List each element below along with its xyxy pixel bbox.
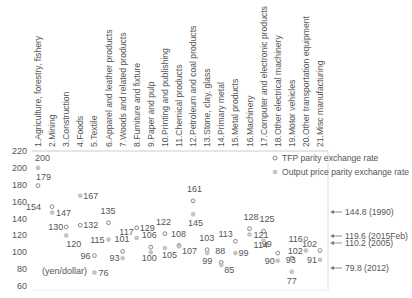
output-point [50, 211, 54, 215]
tfp-point [276, 251, 280, 255]
data-label: 113 [218, 229, 232, 239]
tfp-point [135, 226, 139, 230]
output-point [318, 258, 322, 262]
data-label: 90 [265, 256, 275, 266]
output-point [219, 263, 223, 267]
data-label: 88 [215, 246, 225, 256]
data-label: 161 [187, 184, 202, 194]
category-label: 3.Construction [61, 91, 71, 147]
tfp-point [78, 223, 82, 227]
y-tick-label: 100 [12, 247, 27, 257]
category-label: 19.Motor vehicles [287, 80, 297, 147]
data-label: 179 [36, 172, 51, 182]
output-point [290, 270, 294, 274]
tfp-point [163, 232, 167, 236]
data-label: 121 [254, 230, 269, 240]
tfp-point [93, 254, 97, 258]
data-label: 105 [162, 250, 177, 260]
data-label: 108 [171, 229, 186, 239]
tfp-point [36, 184, 40, 188]
output-point [177, 244, 181, 248]
tfp-point [318, 249, 322, 253]
category-label: 2.Mining [47, 114, 57, 147]
y-tick-label: 200 [12, 163, 27, 173]
category-label: 6.Apparel and leather products [104, 29, 114, 147]
data-label: 135 [101, 206, 116, 216]
category-label: 7.Woods and related products [118, 32, 128, 147]
data-label: 106 [142, 230, 157, 240]
data-label: 130 [48, 222, 63, 232]
category-label: 20.Other transportation equipment [301, 15, 311, 147]
legend-output-marker [273, 170, 277, 174]
category-label: 10.Printing and publishing [160, 48, 170, 147]
arrowhead-icon [330, 266, 334, 270]
category-label: 14.Primary metal [216, 82, 226, 147]
tfp-point [248, 227, 252, 231]
y-tick-label: 140 [12, 214, 27, 224]
y-tick-label: 120 [12, 230, 27, 240]
legend-output-label: Output price parity exchange rate [282, 167, 409, 177]
data-label: 116 [289, 234, 303, 244]
data-label: 128 [244, 212, 259, 222]
y-tick-label: 160 [12, 197, 27, 207]
data-label: 117 [119, 227, 133, 237]
data-label: 154 [26, 202, 41, 212]
data-label: 77 [287, 276, 297, 286]
category-label: 15.Metal products [230, 79, 240, 147]
output-point [276, 259, 280, 263]
category-label: 1.Agriculture, forestry, fishery [33, 35, 43, 147]
data-label: 200 [35, 153, 50, 163]
category-label: 4.Foods [75, 116, 85, 147]
data-label: 102 [288, 246, 303, 256]
tfp-point [121, 250, 125, 254]
category-label: 5.Textile [89, 115, 99, 147]
tfp-point [50, 205, 54, 209]
category-label: 16.Machinery [245, 95, 255, 147]
category-label: 8.Furniture and fixture [132, 63, 142, 147]
output-point [191, 212, 195, 216]
chart-canvas: 60801001201401601802002201.Agriculture, … [0, 0, 412, 298]
output-point [78, 194, 82, 198]
data-label: 120 [66, 239, 81, 249]
data-label: 115 [90, 235, 104, 245]
data-label: 167 [83, 191, 98, 201]
output-point [304, 249, 308, 253]
output-point [64, 233, 68, 237]
y-tick-label: 180 [12, 180, 27, 190]
annotation-label: 144.8 (1990) [345, 207, 394, 217]
data-label: 96 [80, 251, 90, 261]
output-point [121, 256, 125, 260]
tfp-point [234, 239, 238, 243]
category-label: 18.Other electrical machinery [273, 35, 283, 147]
data-label: 114 [254, 240, 268, 250]
category-label: 11.Chemical products [174, 65, 184, 147]
tfp-point [64, 225, 68, 229]
data-label: 103 [199, 233, 214, 243]
data-label: 102 [302, 239, 317, 249]
data-label: 125 [260, 214, 275, 224]
category-label: 21.Misc manufacturing [315, 60, 325, 147]
data-label: 107 [182, 246, 197, 256]
data-label: 93 [286, 255, 296, 265]
y-tick-label: 80 [17, 264, 27, 274]
category-label: 9.Paper and pulp [146, 81, 156, 147]
data-label: 99 [238, 248, 248, 258]
y-tick-label: 60 [17, 281, 27, 291]
data-label: 132 [83, 220, 98, 230]
output-point [107, 238, 111, 242]
unit-label: (yen/dollar) [42, 266, 87, 276]
tfp-point [191, 199, 195, 203]
scatter-chart: 60801001201401601802002201.Agriculture, … [0, 0, 412, 298]
legend-tfp-marker [273, 156, 277, 160]
data-label: 91 [307, 255, 317, 265]
arrowhead-icon [330, 241, 334, 245]
arrowhead-icon [330, 234, 334, 238]
annotation-label: 79.8 (2012) [345, 263, 389, 273]
data-label: 122 [156, 217, 171, 227]
arrowhead-icon [330, 210, 334, 214]
data-label: 100 [142, 253, 157, 263]
output-point [135, 236, 139, 240]
data-label: 99 [202, 256, 212, 266]
tfp-point [149, 245, 153, 249]
tfp-point [107, 221, 111, 225]
